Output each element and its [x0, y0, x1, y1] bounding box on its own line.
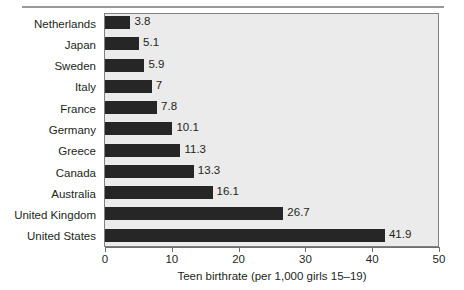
- bar-row: 13.3: [105, 162, 439, 183]
- category-label: Germany: [0, 124, 96, 136]
- bar-row: 11.3: [105, 141, 439, 162]
- bar-row: 41.9: [105, 226, 439, 247]
- x-tick-mark: [172, 247, 173, 252]
- bar-row: 5.1: [105, 34, 439, 55]
- category-label: France: [0, 103, 96, 115]
- bar-value-label: 41.9: [385, 228, 411, 241]
- bar-row: 7.8: [105, 98, 439, 119]
- bar-value-label: 13.3: [194, 164, 220, 177]
- x-tick-label: 10: [165, 253, 178, 266]
- bar-row: 3.8: [105, 13, 439, 34]
- bar: [105, 59, 144, 72]
- bar: [105, 229, 385, 242]
- category-label: Canada: [0, 167, 96, 179]
- x-tick-mark: [439, 247, 440, 252]
- category-label: Sweden: [0, 60, 96, 72]
- category-label: Greece: [0, 145, 96, 157]
- bar-value-label: 11.3: [180, 143, 206, 156]
- teen-birthrate-bar-chart-figure: NetherlandsJapanSwedenItalyFranceGermany…: [0, 0, 464, 290]
- bar-row: 26.7: [105, 204, 439, 225]
- bars-layer: 3.85.15.977.810.111.313.316.126.741.9: [105, 13, 439, 247]
- top-divider-rule: [22, 6, 444, 8]
- bar: [105, 80, 152, 93]
- x-tick-mark: [305, 247, 306, 252]
- bar-value-label: 7.8: [157, 100, 177, 113]
- bar-value-label: 5.9: [144, 58, 164, 71]
- bar-value-label: 5.1: [139, 36, 159, 49]
- bar-row: 7: [105, 77, 439, 98]
- bar: [105, 16, 130, 29]
- x-axis-line: [105, 247, 439, 248]
- category-label: United States: [0, 230, 96, 242]
- bar: [105, 37, 139, 50]
- category-label: Japan: [0, 39, 96, 51]
- x-tick-label: 30: [299, 253, 312, 266]
- bar-value-label: 3.8: [130, 15, 150, 28]
- category-label: Netherlands: [0, 18, 96, 30]
- bar: [105, 207, 283, 220]
- x-tick-label: 0: [102, 253, 108, 266]
- category-label: Australia: [0, 188, 96, 200]
- bar: [105, 101, 157, 114]
- bar: [105, 144, 180, 157]
- category-label: Italy: [0, 81, 96, 93]
- x-tick-label: 50: [433, 253, 446, 266]
- x-axis-title: Teen birthrate (per 1,000 girls 15–19): [105, 270, 439, 283]
- x-tick-mark: [372, 247, 373, 252]
- x-tick-label: 20: [232, 253, 245, 266]
- bar: [105, 165, 194, 178]
- bar: [105, 186, 213, 199]
- bar-row: 16.1: [105, 183, 439, 204]
- x-tick-mark: [105, 247, 106, 252]
- bar-row: 5.9: [105, 56, 439, 77]
- bar-value-label: 10.1: [172, 121, 198, 134]
- x-tick-mark: [239, 247, 240, 252]
- category-axis-labels: NetherlandsJapanSwedenItalyFranceGermany…: [0, 13, 100, 247]
- x-tick-label: 40: [366, 253, 379, 266]
- bar-value-label: 16.1: [213, 185, 239, 198]
- category-label: United Kingdom: [0, 209, 96, 221]
- bar-value-label: 7: [152, 79, 162, 92]
- bar-row: 10.1: [105, 119, 439, 140]
- bar-value-label: 26.7: [283, 206, 309, 219]
- bar: [105, 122, 172, 135]
